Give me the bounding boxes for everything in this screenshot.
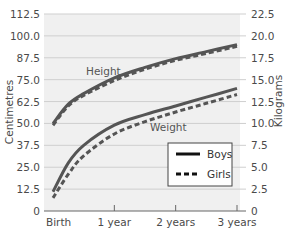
right-tick-label: 7.5 (251, 139, 268, 151)
right-tick-label: 15.0 (251, 74, 274, 86)
x-tick-label: Birth (46, 216, 71, 228)
legend-label-girls: Girls (207, 168, 231, 180)
left-tick-label: 62.5 (17, 96, 40, 108)
right-tick-label: 20.0 (251, 30, 274, 42)
x-tick-label: 1 year (98, 216, 132, 228)
legend-label-boys: Boys (207, 148, 232, 160)
x-tick-label: 2 years (156, 216, 195, 228)
annotation-height: Height (86, 65, 121, 77)
x-tick-label: 3 years (218, 216, 257, 228)
right-tick-label: 10.0 (251, 117, 274, 129)
annotation-weight: Weight (150, 121, 187, 133)
right-tick-label: 12.5 (251, 96, 274, 108)
left-axis-title: Centimetres (3, 80, 15, 144)
left-tick-label: 37.5 (17, 139, 40, 151)
right-axis-ticks: 02.55.07.510.012.515.017.520.022.5 (251, 8, 274, 217)
right-axis-title: Kilograms (272, 75, 284, 127)
left-tick-label: 112.5 (10, 8, 40, 20)
right-tick-label: 5.0 (251, 161, 268, 173)
right-tick-label: 22.5 (251, 8, 274, 20)
growth-chart: 012.525.037.550.062.575.087.5100.0112.5 … (0, 0, 287, 237)
left-tick-label: 100.0 (10, 30, 40, 42)
left-tick-label: 50.0 (17, 117, 40, 129)
left-tick-label: 12.5 (17, 183, 40, 195)
left-tick-label: 25.0 (17, 161, 40, 173)
right-tick-label: 17.5 (251, 52, 274, 64)
right-tick-label: 2.5 (251, 183, 268, 195)
legend: Boys Girls (168, 143, 232, 186)
left-tick-label: 75.0 (17, 74, 40, 86)
left-tick-label: 0 (33, 205, 40, 217)
left-tick-label: 87.5 (17, 52, 40, 64)
